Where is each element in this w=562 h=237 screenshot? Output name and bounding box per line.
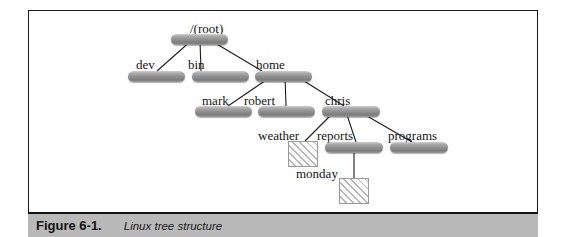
node-label-reports: reports: [317, 129, 353, 142]
figure-container: /(root) dev bin home mark robert chris w…: [0, 0, 562, 237]
node-label-bin: bin: [188, 58, 205, 71]
node-bar-robert[interactable]: [258, 106, 315, 117]
node-file-monday[interactable]: [339, 178, 369, 204]
node-bar-root[interactable]: [171, 34, 228, 45]
node-label-programs: programs: [388, 129, 437, 142]
node-bar-reports[interactable]: [325, 142, 383, 153]
figure-caption-bar: Figure 6-1. Linux tree structure: [28, 212, 538, 237]
node-bar-chris[interactable]: [322, 106, 380, 117]
node-label-home: home: [256, 58, 285, 71]
figure-caption-text: Linux tree structure: [124, 220, 222, 232]
node-bar-bin[interactable]: [192, 71, 249, 82]
node-bar-home[interactable]: [255, 71, 312, 82]
node-label-monday: monday: [296, 167, 338, 180]
node-file-weather[interactable]: [288, 141, 318, 167]
node-bar-dev[interactable]: [128, 71, 185, 82]
node-label-dev: dev: [136, 58, 155, 71]
node-bar-programs[interactable]: [390, 142, 448, 153]
figure-caption-number: Figure 6-1.: [36, 218, 102, 233]
